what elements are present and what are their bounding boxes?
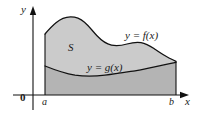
- right-bound-label-b: b: [169, 97, 174, 107]
- y-axis-arrowhead: [30, 6, 36, 15]
- origin-label: 0: [20, 92, 26, 103]
- region-s-label: S: [68, 42, 74, 53]
- area-between-curves-figure: y x 0 a b S y = f(x) y = g(x): [0, 0, 201, 118]
- left-bound-label-a: a: [42, 97, 47, 107]
- lower-curve-label: y = g(x): [87, 62, 123, 73]
- x-axis-label: x: [185, 96, 190, 107]
- upper-curve-label: y = f(x): [125, 30, 158, 41]
- y-axis-label: y: [21, 4, 26, 15]
